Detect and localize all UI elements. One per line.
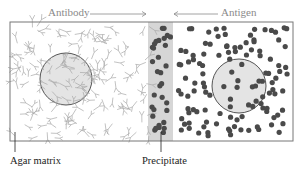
antibody-arrow-icon <box>90 12 146 17</box>
antigen-arrow-icon <box>174 12 218 17</box>
precipitate-label: Precipitate <box>142 155 187 166</box>
antigen-label: Antigen <box>221 6 256 18</box>
antibody-label: Antibody <box>48 6 90 18</box>
immunodiffusion-diagram <box>0 0 304 173</box>
agar-matrix-label: Agar matrix <box>10 155 61 166</box>
